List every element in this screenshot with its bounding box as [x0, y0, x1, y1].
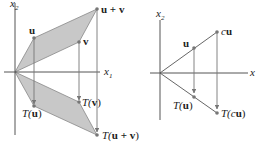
left-diagram: x2 x1 u v u + v T(u) T(v) T(u + v): [4, 0, 139, 142]
label-cu: cu: [221, 25, 232, 37]
point-Tcu: [215, 111, 219, 115]
point-Tu-right: [192, 95, 196, 99]
x-axis-label-right: x: [249, 66, 255, 78]
label-u: u: [29, 24, 35, 36]
point-u-plus-v: [95, 7, 99, 11]
point-v: [77, 40, 81, 44]
label-u-plus-v: u + v: [101, 3, 125, 15]
x2-axis-label: x2: [9, 0, 19, 12]
label-u-right: u: [183, 37, 189, 49]
label-v: v: [83, 35, 89, 47]
label-Tu: T(u): [22, 107, 42, 120]
point-Tupv: [95, 133, 99, 137]
x1-axis-label: x1: [103, 65, 112, 80]
label-Tcu: T(cu): [221, 107, 246, 120]
right-diagram: x2 x u cu T(u) T(cu): [150, 7, 255, 120]
point-u-right: [192, 46, 196, 50]
diagram-canvas: x2 x1 u v u + v T(u) T(v) T(u + v) x2 x …: [0, 0, 256, 145]
label-Tupv: T(u + v): [102, 129, 139, 142]
point-Tv: [77, 100, 81, 104]
point-u: [32, 36, 36, 40]
point-cu: [215, 30, 219, 34]
x2-axis-label-right: x2: [155, 7, 165, 22]
label-Tu-right: T(u): [173, 99, 193, 112]
label-Tv: T(v): [82, 96, 101, 109]
